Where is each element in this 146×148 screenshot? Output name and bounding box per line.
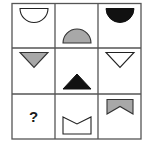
question-mark-label: ? (29, 108, 38, 125)
white-semicircle-shape (20, 9, 48, 23)
missing-answer-question-mark: ? (12, 94, 55, 139)
gray-semicircle-shape (63, 29, 91, 43)
black-semicircle-shape (106, 9, 134, 23)
white-down-triangle-shape (106, 53, 134, 68)
gray-down-triangle-shape (20, 53, 48, 68)
gray-notched-banner-shape (107, 100, 133, 115)
puzzle-grid: ? (0, 0, 146, 148)
black-up-triangle-shape (63, 74, 91, 89)
white-notched-rectangle-shape (63, 117, 91, 134)
